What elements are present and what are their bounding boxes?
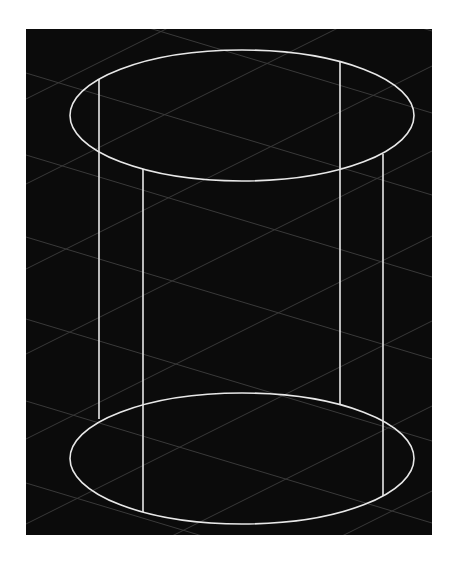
grid-line — [26, 483, 432, 535]
cylinder-bottom-ellipse[interactable] — [70, 393, 414, 524]
grid-line — [26, 66, 432, 269]
grid-line — [26, 155, 432, 277]
cylinder-wireframe — [70, 50, 414, 524]
grid-line — [26, 29, 432, 99]
ground-grid — [26, 29, 432, 535]
grid-line — [26, 401, 432, 523]
wireframe-canvas — [26, 29, 432, 535]
3d-viewport[interactable] — [26, 29, 432, 535]
cylinder-side-edges — [99, 61, 383, 512]
grid-line — [26, 29, 432, 31]
grid-line — [26, 237, 432, 359]
grid-line — [26, 406, 432, 535]
grid-line — [26, 491, 432, 535]
grid-line — [26, 73, 432, 195]
grid-line — [26, 29, 432, 113]
